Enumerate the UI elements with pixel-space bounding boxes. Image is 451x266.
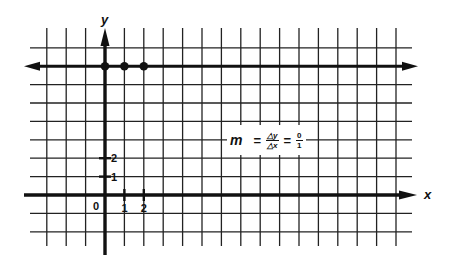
value-fraction: 0 1 xyxy=(296,131,302,150)
x-axis-label: x xyxy=(423,187,432,202)
data-point xyxy=(101,62,110,71)
slope-symbol: m xyxy=(230,132,242,148)
y-tick-label: 2 xyxy=(111,152,117,164)
y-tick-label: 1 xyxy=(111,171,117,183)
equals-sign-2: = xyxy=(284,133,292,148)
x-tick-label: 2 xyxy=(141,202,147,214)
x-tick-label: 1 xyxy=(121,202,127,214)
delta-x: △x xyxy=(266,141,278,150)
numerator: 0 xyxy=(296,131,302,141)
line-left-arrow-icon xyxy=(24,62,40,71)
x-axis-arrow-icon xyxy=(399,191,417,200)
grid-lines xyxy=(30,28,412,246)
y-axis-arrow-icon xyxy=(101,28,110,46)
data-points xyxy=(101,62,148,71)
delta-y: △y xyxy=(266,131,278,141)
equals-sign: = xyxy=(253,133,261,148)
data-point xyxy=(140,62,149,71)
coordinate-plane: yx01212 xyxy=(0,0,451,266)
y-axis-label: y xyxy=(100,12,109,27)
denominator: 1 xyxy=(296,141,302,150)
line-right-arrow-icon xyxy=(402,62,418,71)
data-point xyxy=(120,62,129,71)
slope-formula: m = △y △x = 0 1 xyxy=(227,125,306,155)
axes xyxy=(24,28,417,255)
origin-label: 0 xyxy=(93,200,99,212)
delta-fraction: △y △x xyxy=(266,131,278,150)
